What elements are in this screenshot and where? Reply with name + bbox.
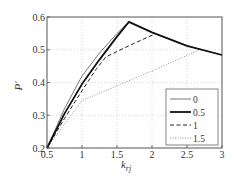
y-tick-label: 0.3 [33, 110, 46, 121]
x-tick-label: 1 [80, 149, 85, 160]
legend-label: 0 [193, 95, 198, 105]
y-tick-label: 0.4 [33, 77, 46, 88]
legend-box [166, 89, 218, 145]
legend: 00.511.5 [166, 89, 218, 145]
y-tick-label: 0.6 [33, 12, 46, 23]
x-axis-ticks: 0.511.522.53 [41, 145, 225, 160]
y-tick-label: 0.5 [33, 44, 46, 55]
y-axis-label: P′ [12, 81, 24, 92]
x-axis-label-sub: rj [126, 164, 132, 173]
x-tick-label: 3 [220, 149, 225, 160]
x-axis-label: krj [121, 158, 132, 173]
x-tick-label: 2.5 [181, 149, 194, 160]
legend-label: 1.5 [193, 134, 205, 144]
y-tick-label: 0.2 [33, 143, 46, 154]
x-tick-label: 2 [150, 149, 155, 160]
line-chart: 0.511.522.53 0.20.30.40.50.6 krj P′ 00.5… [0, 0, 238, 181]
legend-label: 0.5 [193, 108, 205, 118]
legend-label: 1 [193, 121, 198, 131]
